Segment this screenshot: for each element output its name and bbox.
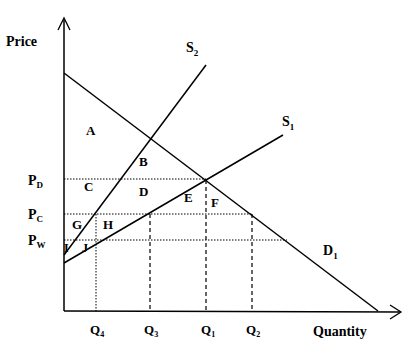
s2-label: S2 <box>186 40 199 58</box>
s1-label: S1 <box>282 114 295 132</box>
axes <box>58 18 401 319</box>
area-c-label: C <box>84 179 93 194</box>
supply-curve-s1 <box>64 135 283 263</box>
pd-label: PD <box>28 173 44 190</box>
area-a-label: A <box>86 123 96 138</box>
area-h-label: H <box>103 217 113 232</box>
area-i-label: I <box>64 241 69 255</box>
q1-label: Q1 <box>201 322 215 339</box>
supply-curve-s2 <box>64 65 206 255</box>
quantity-guides <box>96 180 252 311</box>
x-axis-label: Quantity <box>313 324 367 339</box>
area-g-label: G <box>72 217 82 232</box>
area-b-label: B <box>139 154 148 169</box>
q4-label: Q4 <box>90 322 104 339</box>
pw-label: PW <box>28 233 46 250</box>
y-axis-label: Price <box>6 34 37 49</box>
d1-label: D1 <box>323 243 338 261</box>
area-j-label: J <box>82 241 88 255</box>
area-e-label: E <box>184 190 193 205</box>
q3-label: Q3 <box>144 322 158 339</box>
supply-demand-diagram: Price Quantity S2 S1 D1 PD PC PW Q4 Q3 Q… <box>0 0 417 353</box>
area-d-label: D <box>139 184 148 199</box>
pc-label: PC <box>28 207 43 224</box>
area-f-label: F <box>211 195 219 210</box>
q2-label: Q2 <box>246 322 260 339</box>
x-axis <box>64 311 400 312</box>
curves <box>64 65 378 311</box>
